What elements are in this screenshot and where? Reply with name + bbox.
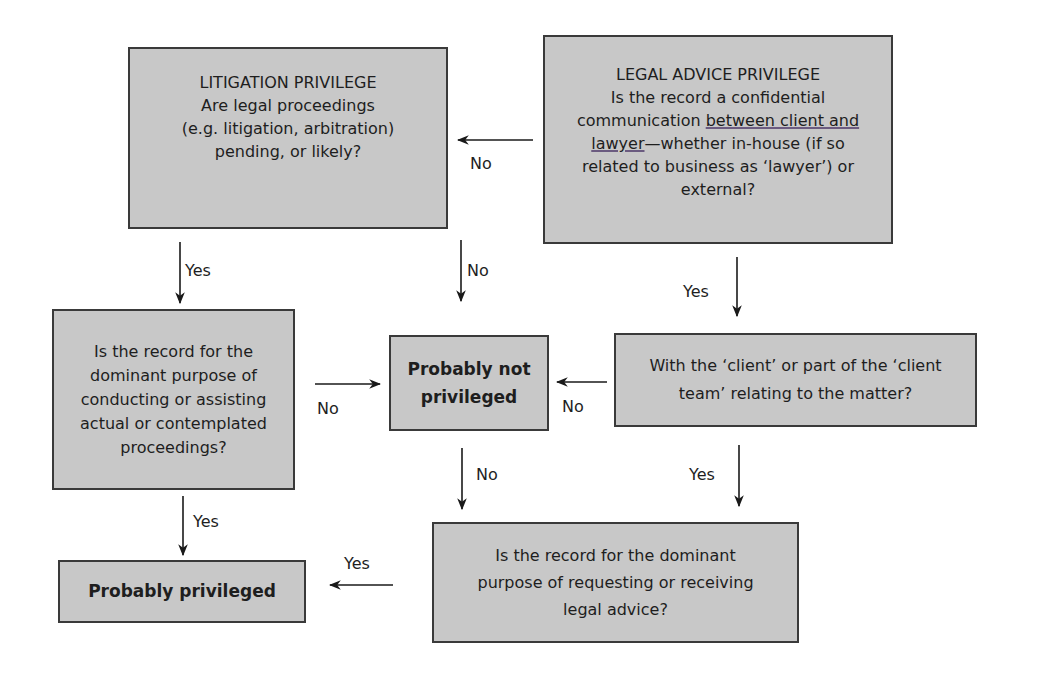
proceedings-line-2: dominant purpose of bbox=[90, 364, 257, 388]
dominant-purpose-advice-node: Is the record for the dominant purpose o… bbox=[432, 522, 799, 643]
advice-line-1: Is the record for the dominant bbox=[495, 542, 735, 569]
label-litigation-to-proceedings: Yes bbox=[185, 261, 211, 280]
legal-advice-title: LEGAL ADVICE PRIVILEGE bbox=[616, 63, 820, 86]
label-not-privileged-to-advice: No bbox=[476, 465, 498, 484]
client-team-line-1: With the ‘client’ or part of the ‘client bbox=[649, 352, 941, 380]
legal-advice-line-5: external? bbox=[681, 178, 755, 201]
client-team-line-2: team’ relating to the matter? bbox=[679, 380, 912, 408]
legal-advice-line-1: Is the record a confidential bbox=[611, 86, 825, 109]
label-legal-advice-to-litigation: No bbox=[470, 154, 492, 173]
proceedings-line-3: conducting or assisting bbox=[81, 388, 267, 412]
legal-advice-line-2-pre: communication bbox=[577, 111, 706, 130]
legal-advice-line-3-post: —whether in-house (if so bbox=[645, 134, 845, 153]
litigation-line-1: Are legal proceedings bbox=[201, 94, 375, 117]
label-proceedings-to-not-privileged: No bbox=[317, 399, 339, 418]
proceedings-line-1: Is the record for the bbox=[94, 340, 253, 364]
litigation-line-2: (e.g. litigation, arbitration) bbox=[182, 117, 394, 140]
legal-advice-line-3: lawyer—whether in-house (if so bbox=[591, 132, 844, 155]
proceedings-line-4: actual or contemplated bbox=[80, 412, 267, 436]
proceedings-line-5: proceedings? bbox=[120, 436, 226, 460]
not-privileged-line-2: privileged bbox=[421, 383, 518, 411]
legal-advice-line-2: communication between client and bbox=[577, 109, 859, 132]
probably-privileged-node: Probably privileged bbox=[58, 560, 306, 623]
advice-line-2: purpose of requesting or receiving bbox=[477, 569, 753, 596]
advice-line-3: legal advice? bbox=[563, 596, 668, 623]
legal-advice-line-4: related to business as ‘lawyer’) or bbox=[582, 155, 854, 178]
dominant-purpose-proceedings-node: Is the record for the dominant purpose o… bbox=[52, 309, 295, 490]
label-legal-advice-to-client-team: Yes bbox=[683, 282, 709, 301]
litigation-title: LITIGATION PRIVILEGE bbox=[199, 71, 376, 94]
label-client-team-to-advice: Yes bbox=[689, 465, 715, 484]
legal-advice-underlined-phrase: between client and bbox=[706, 111, 859, 130]
legal-advice-underlined-word: lawyer bbox=[591, 134, 644, 153]
legal-advice-privilege-node: LEGAL ADVICE PRIVILEGE Is the record a c… bbox=[543, 35, 893, 244]
not-privileged-line-1: Probably not bbox=[407, 355, 530, 383]
litigation-privilege-node: LITIGATION PRIVILEGE Are legal proceedin… bbox=[128, 47, 448, 229]
privilege-flowchart: LITIGATION PRIVILEGE Are legal proceedin… bbox=[0, 0, 1063, 677]
probably-not-privileged-node: Probably not privileged bbox=[389, 335, 549, 431]
label-proceedings-to-privileged: Yes bbox=[193, 512, 219, 531]
label-client-team-to-not-privileged: No bbox=[562, 397, 584, 416]
client-team-node: With the ‘client’ or part of the ‘client… bbox=[614, 333, 977, 427]
label-litigation-to-not-privileged: No bbox=[467, 261, 489, 280]
privileged-label: Probably privileged bbox=[88, 580, 276, 603]
litigation-line-3: pending, or likely? bbox=[215, 140, 362, 163]
label-advice-to-privileged: Yes bbox=[344, 554, 370, 573]
